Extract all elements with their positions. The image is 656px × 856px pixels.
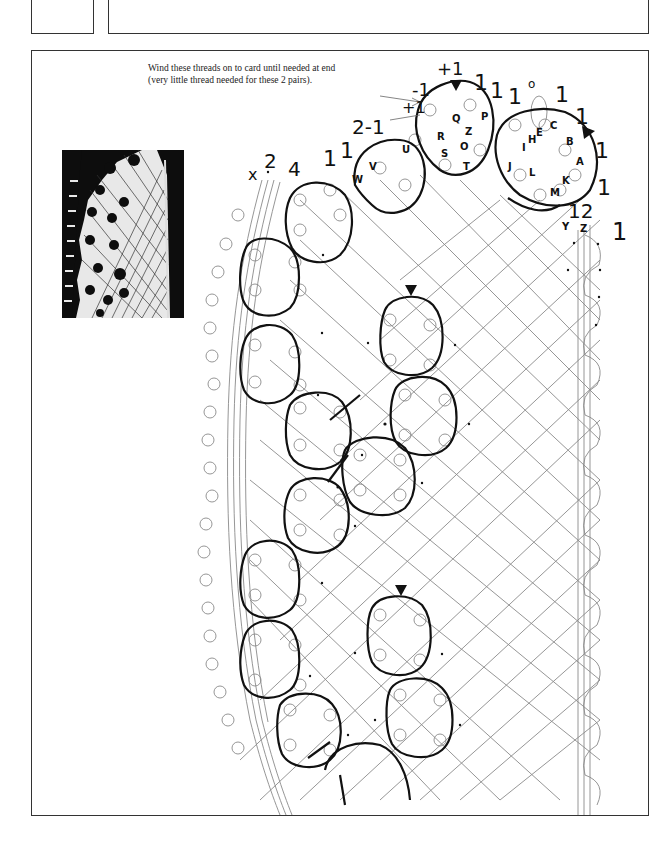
- bobbin-letter-label: W: [352, 174, 363, 185]
- bobbin-letter-label: Z: [580, 223, 587, 234]
- pair-number-label: x: [248, 165, 257, 184]
- pricking-diagram: x24112-1+1-1+1111o1111121 WVUQPRZSOTIHEC…: [0, 0, 656, 856]
- bobbin-letter-label: S: [441, 148, 448, 159]
- pair-number-label: o: [528, 77, 535, 91]
- pair-number-label: 1: [340, 138, 354, 163]
- bobbin-letter-label: P: [481, 111, 488, 122]
- bobbin-letter-label: L: [529, 167, 536, 178]
- bobbin-letter-label: A: [576, 156, 584, 167]
- triangle-marker-icon: [405, 285, 417, 296]
- bobbin-letter-label: U: [402, 144, 410, 155]
- pair-number-label: 1: [555, 82, 569, 107]
- pair-number-label: 1: [575, 104, 589, 129]
- pair-number-label: 1: [597, 175, 611, 200]
- pair-number-label: +1: [402, 98, 426, 117]
- right-edge-threads: [578, 225, 600, 815]
- pair-number-label: 1: [595, 138, 609, 163]
- pair-number-label: 1: [323, 146, 337, 171]
- pair-number-label: 4: [288, 157, 301, 181]
- pair-number-label: 2-1: [352, 115, 385, 139]
- pair-number-label: 1: [490, 78, 504, 103]
- pair-number-label: 12: [568, 199, 593, 223]
- bobbin-letter-label: J: [507, 161, 512, 172]
- bobbin-letter-label: C: [550, 120, 557, 131]
- bobbin-letter-label: V: [369, 161, 377, 172]
- pair-number-label: 1: [508, 84, 522, 109]
- pair-number-label: 1: [474, 70, 488, 95]
- bobbin-letter-label: O: [460, 141, 469, 152]
- bobbin-letter-label: Y: [561, 221, 570, 232]
- bobbin-letter-label: R: [437, 131, 445, 142]
- bobbin-letter-label: M: [550, 187, 560, 198]
- ground-net: [240, 175, 600, 800]
- bobbin-letter-label: K: [562, 175, 571, 186]
- bobbin-letter-label: T: [463, 161, 470, 172]
- triangle-marker-icon: [450, 80, 462, 91]
- pair-number-label: +1: [437, 58, 464, 79]
- pair-number-label: 1: [612, 218, 627, 246]
- bobbin-letter-label: E: [536, 127, 543, 138]
- bobbin-letter-label: I: [522, 142, 526, 153]
- bobbin-letter-label: B: [566, 136, 574, 147]
- pair-number-label: -1: [412, 79, 430, 100]
- triangle-marker-icon: [395, 585, 407, 596]
- bobbin-letter-label: Q: [452, 113, 461, 124]
- bobbin-letter-label: Z: [465, 126, 472, 137]
- pair-number-label: 2: [264, 149, 277, 173]
